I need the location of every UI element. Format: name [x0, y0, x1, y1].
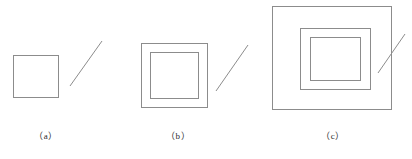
- panel-b-inner-rectangle: [150, 52, 199, 99]
- panel-a-outer-rectangle: [13, 55, 59, 98]
- panel-c-diagonal-line: [376, 32, 407, 75]
- panel-b-caption: （b）: [150, 129, 206, 142]
- panel-c-caption: （c）: [305, 129, 361, 142]
- figure-root: （a） （b） （c）: [0, 0, 412, 159]
- panel-a-diagonal-line: [68, 39, 104, 88]
- panel-a-caption: （a）: [18, 129, 74, 142]
- panel-c-inner-rectangle: [310, 37, 361, 81]
- panel-b-diagonal-line: [214, 43, 250, 93]
